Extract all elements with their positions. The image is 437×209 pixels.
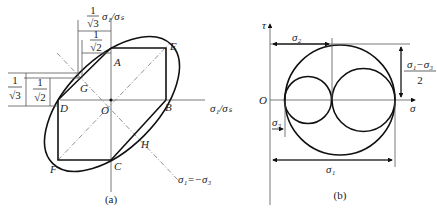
origin-dot	[109, 98, 112, 101]
svg-text:√3: √3	[9, 89, 21, 101]
anti-diagonal-label: σ₁=−σ₃	[178, 173, 212, 185]
panel-a: 1 √3 σ₁/σₛ 1 √2 1 √3 1 √2 A E B D G O H …	[8, 4, 233, 206]
radius-label: σ₁−σ₃ 2	[404, 58, 436, 86]
svg-text:2: 2	[417, 74, 423, 86]
svg-text:1: 1	[37, 76, 43, 88]
tau-axis-label: τ	[262, 19, 267, 31]
svg-text:√2: √2	[34, 91, 46, 103]
svg-text:1: 1	[93, 28, 99, 40]
sigma3-label: σ₃	[272, 116, 281, 128]
top-dim-label-1: 1 √3 σ₁/σₛ	[87, 4, 125, 29]
svg-text:1: 1	[12, 74, 18, 86]
sigma-axis-label: σ	[410, 102, 416, 114]
svg-text:√2: √2	[90, 41, 102, 53]
sigma1-label: σ₁	[326, 163, 335, 175]
left-dim-label-2: 1 √2	[33, 76, 47, 103]
point-e-label: E	[169, 40, 177, 52]
svg-text:σ₁−σ₃: σ₁−σ₃	[407, 58, 433, 70]
point-b-label: B	[165, 101, 172, 113]
left-dim-label-1: 1 √3	[8, 74, 22, 101]
figure-canvas: 1 √3 σ₁/σₛ 1 √2 1 √3 1 √2 A E B D G O H …	[0, 0, 437, 209]
svg-text:σ₁/σₛ: σ₁/σₛ	[102, 10, 125, 22]
origin-label: O	[259, 94, 267, 106]
caption-b: (b)	[334, 189, 347, 202]
caption-a: (a)	[105, 193, 118, 206]
point-g-label: G	[80, 82, 88, 94]
line-cb	[111, 100, 166, 160]
panel-b: σ₂ σ₁−σ₃ 2 σ₃ σ₁ τ σ O (b)	[259, 19, 436, 205]
point-f-label: F	[49, 163, 57, 175]
sigma2-label: σ₂	[292, 31, 301, 43]
point-o-label: O	[101, 104, 109, 116]
x-axis-label: σ₁/σₛ	[210, 102, 233, 114]
point-c-label: C	[114, 160, 122, 172]
point-a-label: A	[113, 56, 121, 68]
point-h-label: H	[140, 138, 150, 150]
top-dim-label-2: 1 √2	[90, 28, 102, 53]
svg-text:1: 1	[90, 4, 96, 16]
point-d-label: D	[59, 102, 68, 114]
